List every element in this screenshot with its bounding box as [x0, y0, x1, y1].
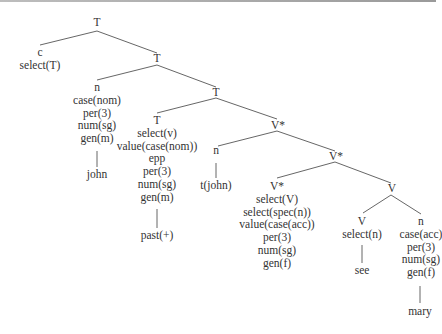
node-label: c	[20, 46, 61, 59]
feature: value(case(nom))	[117, 140, 197, 153]
feature: num(sg)	[117, 178, 197, 191]
edge-vstar1-vstar2	[277, 131, 335, 151]
tree-edges	[0, 0, 442, 334]
node-t-head: T select(v) value(case(nom)) epp per(3) …	[117, 114, 197, 204]
feature: epp	[117, 152, 197, 165]
feature: select(n)	[342, 228, 382, 241]
node-v-phrase: V	[388, 182, 396, 195]
node-n-trace: n	[213, 144, 219, 157]
feature: per(3)	[239, 231, 314, 244]
node-label: T	[117, 114, 197, 127]
node-vstar1: V*	[271, 119, 285, 132]
node-vstar2: V*	[329, 150, 343, 163]
node-label: V	[342, 215, 382, 228]
feature: num(sg)	[73, 119, 121, 132]
feature: select(V)	[239, 193, 314, 206]
feature: select(v)	[117, 127, 197, 140]
edge-t3-vstar1	[216, 98, 277, 119]
node-n-subject: n case(nom) per(3) num(sg) gen(m)	[73, 81, 121, 145]
edge-t3-thead	[157, 98, 216, 113]
feature: gen(f)	[239, 257, 314, 270]
node-v-head: V select(n)	[342, 215, 382, 241]
feature: value(case(acc))	[239, 218, 314, 231]
feature: select(spec(n))	[239, 206, 314, 219]
edge-vstar1-ntrace	[218, 131, 277, 146]
feature: per(3)	[117, 165, 197, 178]
feature: num(sg)	[239, 244, 314, 257]
feature: select(T)	[20, 59, 61, 72]
leaf-see: see	[355, 264, 370, 277]
node-vstar-head: V* select(V) select(spec(n)) value(case(…	[239, 180, 314, 270]
edge-vstar2-vstarhead	[277, 162, 335, 178]
edge-v-vhead	[363, 195, 391, 213]
edge-vstar2-v	[335, 162, 391, 183]
edge-t2-t3	[157, 65, 216, 87]
feature: num(sg)	[400, 253, 442, 266]
node-label: n	[73, 81, 121, 94]
node-c: c select(T)	[20, 46, 61, 72]
node-label: n	[400, 215, 442, 228]
leaf-mary: mary	[408, 305, 432, 318]
feature: case(nom)	[73, 94, 121, 107]
feature: per(3)	[400, 241, 442, 254]
edge-root-c	[40, 31, 97, 45]
leaf-past: past(+)	[141, 229, 174, 242]
edge-t2-nsubj	[97, 65, 157, 80]
feature: gen(f)	[400, 266, 442, 279]
feature: gen(m)	[73, 132, 121, 145]
edge-root-t2	[97, 31, 157, 53]
leaf-t-john: t(john)	[200, 179, 231, 192]
feature: case(acc)	[400, 228, 442, 241]
node-label: V*	[239, 180, 314, 193]
feature: gen(m)	[117, 191, 197, 204]
feature: per(3)	[73, 107, 121, 120]
node-t2: T	[153, 52, 160, 65]
node-root-t: T	[93, 16, 100, 29]
edge-v-nobj	[391, 195, 421, 214]
node-t3: T	[212, 86, 219, 99]
leaf-john: john	[87, 168, 107, 181]
node-n-object: n case(acc) per(3) num(sg) gen(f)	[400, 215, 442, 279]
